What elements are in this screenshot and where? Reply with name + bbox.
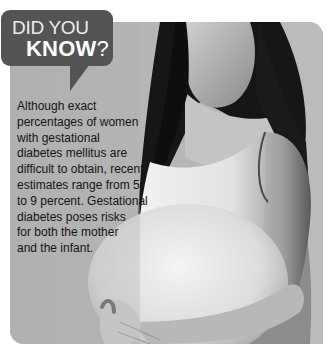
fact-line: for both the mother	[17, 225, 162, 241]
did-you-know-callout: DID YOU KNOW?	[1, 10, 113, 66]
fact-line: estimates range from 5	[17, 178, 162, 194]
fact-line: with gestational	[17, 131, 162, 147]
fact-line: Although exact	[17, 99, 162, 115]
fact-line: to 9 percent. Gestational	[17, 194, 162, 210]
fact-line: difficult to obtain, recent	[17, 162, 162, 178]
fact-paragraph: Although exact percentages of women with…	[17, 99, 162, 257]
fact-line: diabetes mellitus are	[17, 146, 162, 162]
question-mark: ?	[96, 36, 108, 61]
callout-title-line1: DID YOU	[12, 18, 89, 38]
fact-line: percentages of women	[17, 115, 162, 131]
callout-know-text: KNOW	[26, 36, 96, 61]
fact-line: and the infant.	[17, 241, 162, 257]
callout-tail	[70, 64, 90, 91]
callout-title-line2: KNOW?	[26, 37, 109, 61]
fact-line: diabetes poses risks	[17, 210, 162, 226]
